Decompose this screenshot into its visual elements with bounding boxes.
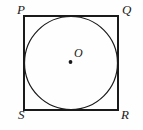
vertex-label-p: P — [17, 3, 25, 16]
vertex-label-s: S — [18, 108, 25, 121]
center-point-dot — [69, 60, 73, 64]
vertex-label-q: Q — [122, 3, 131, 16]
vertex-label-r: R — [121, 108, 129, 121]
geometry-figure: P Q S R O — [0, 0, 143, 130]
center-label-o: O — [74, 47, 83, 59]
